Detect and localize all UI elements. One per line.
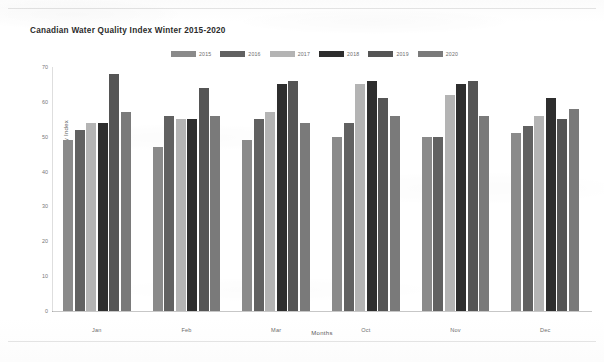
bar-jan-2016[interactable] <box>75 130 85 311</box>
bar-mar-2016[interactable] <box>254 119 264 311</box>
bar-feb-2015[interactable] <box>153 147 163 311</box>
bar-feb-2016[interactable] <box>164 116 174 311</box>
bar-dec-2020[interactable] <box>569 109 579 311</box>
bar-jan-2017[interactable] <box>86 123 96 311</box>
bar-feb-2020[interactable] <box>210 116 220 311</box>
bar-group-oct: Oct <box>321 67 411 311</box>
x-axis-title: Months <box>52 330 592 336</box>
bar-feb-2019[interactable] <box>199 88 209 311</box>
y-tick-60: 60 <box>26 99 48 105</box>
bar-mar-2020[interactable] <box>300 123 310 311</box>
bar-groups: JanFebMarOctNovDec <box>52 67 590 311</box>
bar-oct-2017[interactable] <box>355 84 365 311</box>
x-axis-line <box>52 311 592 312</box>
bar-oct-2018[interactable] <box>367 81 377 311</box>
bar-dec-2018[interactable] <box>546 98 556 311</box>
bar-mar-2018[interactable] <box>277 84 287 311</box>
y-tick-20: 20 <box>26 238 48 244</box>
bar-group-jan: Jan <box>52 67 142 311</box>
bar-jan-2018[interactable] <box>98 123 108 311</box>
bar-nov-2015[interactable] <box>422 137 432 311</box>
bar-oct-2019[interactable] <box>378 98 388 311</box>
bar-jan-2020[interactable] <box>121 112 131 311</box>
bar-feb-2017[interactable] <box>176 119 186 311</box>
bar-dec-2016[interactable] <box>523 126 533 311</box>
bar-nov-2017[interactable] <box>445 95 455 311</box>
y-tick-40: 40 <box>26 169 48 175</box>
bar-oct-2015[interactable] <box>332 137 342 311</box>
bar-oct-2016[interactable] <box>344 123 354 311</box>
y-tick-0: 0 <box>26 308 48 314</box>
bar-feb-2018[interactable] <box>187 119 197 311</box>
bar-group-mar: Mar <box>231 67 321 311</box>
bar-jan-2015[interactable] <box>63 140 73 311</box>
bar-nov-2019[interactable] <box>468 81 478 311</box>
y-tick-70: 70 <box>26 64 48 70</box>
bar-jan-2019[interactable] <box>109 74 119 311</box>
bar-group-nov: Nov <box>411 67 501 311</box>
y-tick-30: 30 <box>26 203 48 209</box>
y-tick-10: 10 <box>26 273 48 279</box>
bar-dec-2017[interactable] <box>534 116 544 311</box>
bar-dec-2015[interactable] <box>511 133 521 311</box>
bar-group-feb: Feb <box>142 67 232 311</box>
plot-area: Canadian Water Quality Index JanFebMarOc… <box>52 67 590 311</box>
bar-mar-2019[interactable] <box>288 81 298 311</box>
bar-mar-2017[interactable] <box>265 112 275 311</box>
bar-nov-2016[interactable] <box>433 137 443 311</box>
bar-mar-2015[interactable] <box>242 140 252 311</box>
y-tick-50: 50 <box>26 134 48 140</box>
bar-nov-2018[interactable] <box>456 84 466 311</box>
bar-dec-2019[interactable] <box>557 119 567 311</box>
bar-oct-2020[interactable] <box>390 116 400 311</box>
bar-nov-2020[interactable] <box>479 116 489 311</box>
bar-group-dec: Dec <box>500 67 590 311</box>
